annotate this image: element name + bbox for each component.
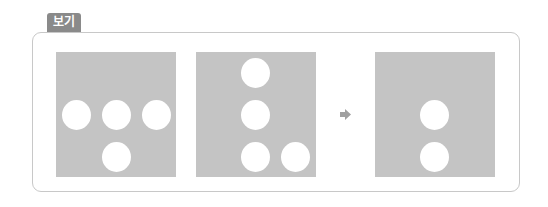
example-label: 보기	[47, 13, 81, 32]
panel-2	[196, 52, 316, 177]
circle	[62, 100, 91, 130]
circle	[420, 142, 449, 172]
circle	[241, 58, 270, 88]
circle	[281, 142, 310, 172]
arrow-right-icon	[340, 109, 351, 120]
circle	[102, 100, 131, 130]
circle	[241, 142, 270, 172]
circle	[241, 100, 270, 130]
circle	[102, 142, 131, 172]
panel-3-result	[375, 52, 495, 177]
circle	[420, 100, 449, 130]
panel-1	[56, 52, 176, 177]
circle	[142, 100, 171, 130]
